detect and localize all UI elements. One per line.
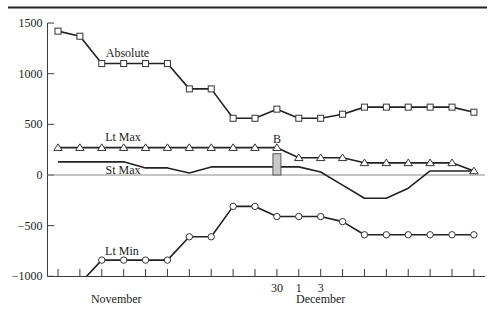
square-marker [471,109,477,115]
circle-marker [77,280,83,286]
month-label: December [296,292,345,306]
figure: 150010005000−500−1000 3013NovemberDecemb… [0,0,498,319]
annotation-bars [273,154,281,175]
line-chart: 150010005000−500−1000 3013NovemberDecemb… [0,0,498,319]
circle-marker [208,234,214,240]
circle-marker [449,232,455,238]
square-marker [186,86,192,92]
square-marker [340,111,346,117]
circle-marker [427,232,433,238]
series-label-lt-max: Lt Max [105,130,141,144]
circle-marker [296,213,302,219]
y-tick-label: 0 [37,168,43,182]
square-marker [427,104,433,110]
month-label: November [91,292,142,306]
square-marker [296,115,302,121]
series-label-absolute: Absolute [106,46,149,60]
square-marker [252,115,258,121]
y-tick-label: −500 [18,219,43,233]
x-axis: 3013NovemberDecember [48,269,486,306]
square-marker [405,104,411,110]
circle-marker [361,232,367,238]
y-tick-label: 1500 [19,16,43,30]
circle-marker [99,257,105,263]
circle-marker [274,213,280,219]
square-marker [208,86,214,92]
square-marker [230,115,236,121]
annotation-bar-label: B [273,132,281,146]
circle-marker [317,213,323,219]
square-marker [449,104,455,110]
series-label-lt-min: Lt Min [105,244,139,258]
square-marker [121,61,127,67]
circle-marker [164,257,170,263]
square-marker [361,104,367,110]
circle-marker [142,257,148,263]
circle-marker [383,232,389,238]
y-axis: 150010005000−500−1000 [12,16,54,283]
circle-marker [186,234,192,240]
square-marker [99,61,105,67]
chart-labels: BAbsoluteLt MaxSt MaxLt Min [105,46,281,258]
square-marker [318,115,324,121]
annotation-bar [273,154,281,175]
circle-marker [339,218,345,224]
y-tick-label: 1000 [19,67,43,81]
square-marker [143,61,149,67]
square-marker [77,33,83,39]
circle-marker [405,232,411,238]
y-tick-label: −1000 [12,269,43,283]
square-marker [383,104,389,110]
y-tick-label: 500 [25,117,43,131]
square-marker [274,106,280,112]
circle-marker [230,203,236,209]
series-label-st-max: St Max [106,163,141,177]
square-marker [55,28,61,34]
x-tick-label: 30 [271,281,283,295]
square-marker [164,61,170,67]
circle-marker [471,232,477,238]
circle-marker [252,203,258,209]
